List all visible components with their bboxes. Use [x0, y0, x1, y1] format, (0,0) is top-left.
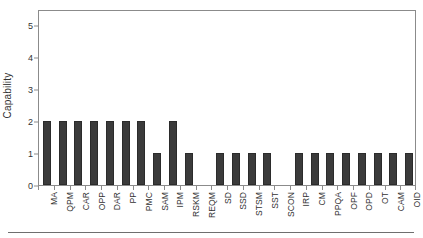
- y-tick-label: 4: [28, 53, 33, 63]
- x-tick-mark: [148, 186, 149, 190]
- x-tick-mark: [243, 186, 244, 190]
- bar-qpm: [59, 121, 67, 185]
- bar-pp: [122, 121, 130, 185]
- bar-oid: [405, 153, 413, 185]
- x-tick-mark: [164, 186, 165, 190]
- x-tick-label-cm: CM: [317, 192, 327, 205]
- bar-sd: [216, 153, 224, 185]
- y-axis-ticks: 012345: [16, 10, 38, 186]
- x-tick-label-rskm: RSKM: [191, 192, 201, 217]
- bar-cam: [389, 153, 397, 185]
- x-tick-label-ppqa: PPQA: [333, 192, 343, 216]
- bar-pmc: [137, 121, 145, 185]
- bar-dar: [106, 121, 114, 185]
- bar-stsm: [248, 153, 256, 185]
- x-tick-mark: [369, 186, 370, 190]
- bar-rskm: [185, 153, 193, 185]
- bar-sam: [153, 153, 161, 185]
- x-tick-label-ipm: IPM: [175, 192, 185, 207]
- bar-ppqa: [326, 153, 334, 185]
- x-tick-mark: [415, 186, 416, 190]
- bar-cm: [311, 153, 319, 185]
- x-tick-mark: [211, 186, 212, 190]
- y-tick-label: 3: [28, 85, 33, 95]
- x-tick-label-pmc: PMC: [144, 192, 154, 211]
- bars-container: [39, 11, 415, 185]
- x-tick-mark: [227, 186, 228, 190]
- x-tick-mark: [337, 186, 338, 190]
- x-axis-ticks-and-labels: MAQPMCAROPPDARPPPMCSAMIPMRSKMREQMSDSSDST…: [38, 186, 416, 238]
- x-tick-mark: [259, 186, 260, 190]
- x-tick-label-opd: OPD: [364, 192, 374, 211]
- page-divider-rule: [8, 232, 414, 233]
- x-tick-label-car: CAR: [81, 192, 91, 210]
- bar-opd: [358, 153, 366, 185]
- capability-bar-chart: Capability 012345 MAQPMCAROPPDARPPPMCSAM…: [0, 0, 423, 238]
- x-tick-label-ssd: SSD: [238, 192, 248, 210]
- bar-ma: [43, 121, 51, 185]
- x-tick-label-irp: IRP: [301, 192, 311, 206]
- x-tick-mark: [306, 186, 307, 190]
- bar-ot: [374, 153, 382, 185]
- y-axis-title-text: Capability: [3, 72, 14, 118]
- bar-irp: [295, 153, 303, 185]
- bar-ipm: [169, 121, 177, 185]
- y-tick-label: 2: [28, 117, 33, 127]
- y-tick-label: 1: [28, 149, 33, 159]
- x-tick-mark: [353, 186, 354, 190]
- y-tick-label: 0: [28, 181, 33, 191]
- x-tick-mark: [70, 186, 71, 190]
- x-tick-label-pp: PP: [128, 192, 138, 204]
- x-tick-mark: [38, 186, 39, 190]
- y-tick-label: 5: [28, 21, 33, 31]
- x-tick-label-reqm: REQM: [207, 192, 217, 218]
- x-tick-mark: [322, 186, 323, 190]
- bar-car: [74, 121, 82, 185]
- x-tick-label-opf: OPF: [349, 192, 359, 210]
- x-tick-label-sst: SST: [270, 192, 280, 209]
- x-tick-label-oid: OID: [412, 192, 422, 207]
- bar-opp: [90, 121, 98, 185]
- x-tick-label-sam: SAM: [160, 192, 170, 211]
- x-tick-label-dar: DAR: [112, 192, 122, 210]
- x-tick-label-scon: SCON: [286, 192, 296, 217]
- x-tick-mark: [180, 186, 181, 190]
- x-tick-mark: [101, 186, 102, 190]
- x-tick-label-sd: SD: [223, 192, 233, 204]
- bar-sst: [263, 153, 271, 185]
- x-tick-label-ot: OT: [380, 192, 390, 204]
- bar-ssd: [232, 153, 240, 185]
- x-tick-mark: [400, 186, 401, 190]
- x-tick-mark: [385, 186, 386, 190]
- y-axis-title: Capability: [0, 0, 16, 190]
- x-tick-label-cam: CAM: [396, 192, 406, 211]
- x-tick-mark: [290, 186, 291, 190]
- plot-area: [38, 10, 416, 186]
- x-tick-label-opp: OPP: [97, 192, 107, 210]
- x-tick-label-qpm: QPM: [65, 192, 75, 212]
- x-tick-mark: [196, 186, 197, 190]
- x-tick-label-stsm: STSM: [254, 192, 264, 216]
- x-tick-mark: [117, 186, 118, 190]
- x-tick-label-ma: MA: [49, 192, 59, 205]
- x-tick-mark: [85, 186, 86, 190]
- x-tick-mark: [54, 186, 55, 190]
- x-tick-mark: [274, 186, 275, 190]
- x-tick-mark: [133, 186, 134, 190]
- bar-opf: [342, 153, 350, 185]
